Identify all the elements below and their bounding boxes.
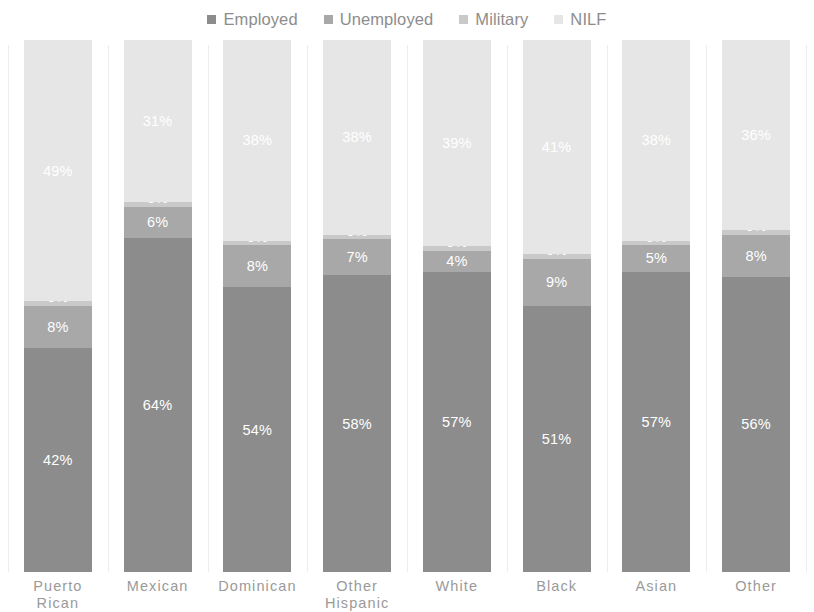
stacked-bar[interactable]: 64%6%0%31% [124,45,192,572]
bar-segment-military[interactable]: 0% [523,254,591,259]
x-axis-tick-line1: Other [307,578,407,595]
chart-legend: EmployedUnemployedMilitaryNILF [0,4,814,34]
x-axis-tick-line1: Puerto [8,578,108,595]
x-axis-tick-label: Asian [607,578,707,612]
legend-swatch-icon [554,15,563,24]
legend-swatch-icon [459,15,468,24]
bar-segment-unemployed[interactable]: 7% [323,239,391,275]
stacked-bar[interactable]: 57%4%0%39% [423,45,491,572]
bar-segment-employed[interactable]: 56% [722,277,790,572]
bar-segment-value-label: 4% [423,254,491,269]
bar-segment-unemployed[interactable]: 8% [722,235,790,277]
legend-swatch-icon [207,15,216,24]
bar-segment-value-label: 7% [323,250,391,265]
bar-slot: 51%9%0%41% [507,45,607,572]
x-axis-tick-label: White [407,578,507,612]
x-axis-tick-line2: Hispanic [307,595,407,612]
bar-segment-employed[interactable]: 57% [622,272,690,572]
bar-segment-employed[interactable]: 58% [323,275,391,572]
legend-item-label: Military [475,11,528,28]
bar-segment-military[interactable]: 0% [423,246,491,251]
legend-item-nilf[interactable]: NILF [554,11,606,28]
stacked-bar[interactable]: 58%7%0%38% [323,45,391,572]
bar-segment-employed[interactable]: 57% [423,272,491,572]
bar-slot: 57%4%0%39% [407,45,507,572]
bar-segment-value-label: 57% [622,415,690,430]
x-axis-tick-line2: Rican [8,595,108,612]
bar-segment-unemployed[interactable]: 9% [523,259,591,306]
bar-segment-nilf[interactable]: 38% [323,40,391,234]
bar-slot: 56%8%0%36% [706,45,806,572]
stacked-bar-chart: EmployedUnemployedMilitaryNILF 42%8%0%49… [0,0,814,612]
bar-segment-value-label: 58% [323,416,391,431]
x-axis-labels: PuertoRicanMexicanDominicanOtherHispanic… [0,578,814,612]
bar-segment-military[interactable]: 0% [323,235,391,240]
bar-segment-value-label: 49% [24,163,92,178]
legend-item-military[interactable]: Military [459,11,528,28]
bar-segment-employed[interactable]: 42% [24,348,92,572]
legend-swatch-icon [324,15,333,24]
legend-item-label: Unemployed [340,11,434,28]
bar-segment-value-label: 57% [423,415,491,430]
bar-slot: 64%6%0%31% [108,45,208,572]
plot-area: 42%8%0%49%64%6%0%31%54%8%0%38%58%7%0%38%… [0,45,814,572]
bar-segment-nilf[interactable]: 39% [423,40,491,246]
x-axis-tick-label: Dominican [208,578,308,612]
bar-segment-value-label: 42% [24,453,92,468]
bar-segment-value-label: 31% [124,114,192,129]
bar-segment-employed[interactable]: 64% [124,238,192,572]
bar-segment-value-label: 38% [223,133,291,148]
legend-item-unemployed[interactable]: Unemployed [324,11,434,28]
x-axis-tick-label: Mexican [108,578,208,612]
bar-segment-nilf[interactable]: 36% [722,40,790,230]
bar-segment-unemployed[interactable]: 8% [223,245,291,287]
bar-segment-unemployed[interactable]: 8% [24,306,92,349]
bar-segment-value-label: 38% [323,130,391,145]
bar-segment-nilf[interactable]: 49% [24,40,92,301]
bar-segment-value-label: 6% [124,215,192,230]
x-axis-tick-label: OtherHispanic [307,578,407,612]
bar-segment-employed[interactable]: 54% [223,287,291,572]
bar-segment-value-label: 36% [722,128,790,143]
bar-segment-military[interactable]: 0% [722,230,790,235]
bar-slot: 42%8%0%49% [8,45,108,572]
x-axis-tick-label: Black [507,578,607,612]
bar-segment-value-label: 51% [523,432,591,447]
bar-segment-value-label: 54% [223,422,291,437]
x-axis-tick-line1: Asian [607,578,707,595]
bar-segment-value-label: 5% [622,251,690,266]
bar-segment-value-label: 41% [523,140,591,155]
stacked-bar[interactable]: 56%8%0%36% [722,45,790,572]
x-axis-tick-line1: Other [706,578,806,595]
bar-segment-nilf[interactable]: 31% [124,40,192,202]
bar-segment-nilf[interactable]: 41% [523,40,591,254]
bar-segment-unemployed[interactable]: 6% [124,207,192,238]
bar-segment-military[interactable]: 0% [223,241,291,246]
legend-item-label: NILF [570,11,606,28]
legend-item-employed[interactable]: Employed [207,11,297,28]
bar-segment-military[interactable]: 0% [24,301,92,306]
stacked-bar[interactable]: 54%8%0%38% [223,45,291,572]
bar-segment-unemployed[interactable]: 4% [423,251,491,272]
bar-segment-value-label: 8% [722,249,790,264]
bar-slot: 57%5%0%38% [607,45,707,572]
x-axis-tick-line1: White [407,578,507,595]
bar-segment-military[interactable]: 0% [124,202,192,207]
bar-segment-military[interactable]: 0% [622,241,690,246]
bar-segment-unemployed[interactable]: 5% [622,245,690,271]
stacked-bar[interactable]: 42%8%0%49% [24,45,92,572]
stacked-bar[interactable]: 57%5%0%38% [622,45,690,572]
x-axis-tick-line1: Dominican [208,578,308,595]
bar-segment-value-label: 9% [523,275,591,290]
bar-segment-employed[interactable]: 51% [523,306,591,572]
x-axis-tick-label: PuertoRican [8,578,108,612]
bar-slot: 54%8%0%38% [208,45,308,572]
x-axis-tick-line1: Black [507,578,607,595]
stacked-bar[interactable]: 51%9%0%41% [523,45,591,572]
bar-segment-value-label: 38% [622,133,690,148]
legend-item-label: Employed [223,11,297,28]
bar-segment-nilf[interactable]: 38% [223,40,291,240]
bar-slot: 58%7%0%38% [307,45,407,572]
bar-segment-nilf[interactable]: 38% [622,40,690,240]
bar-group: 42%8%0%49%64%6%0%31%54%8%0%38%58%7%0%38%… [0,45,814,572]
